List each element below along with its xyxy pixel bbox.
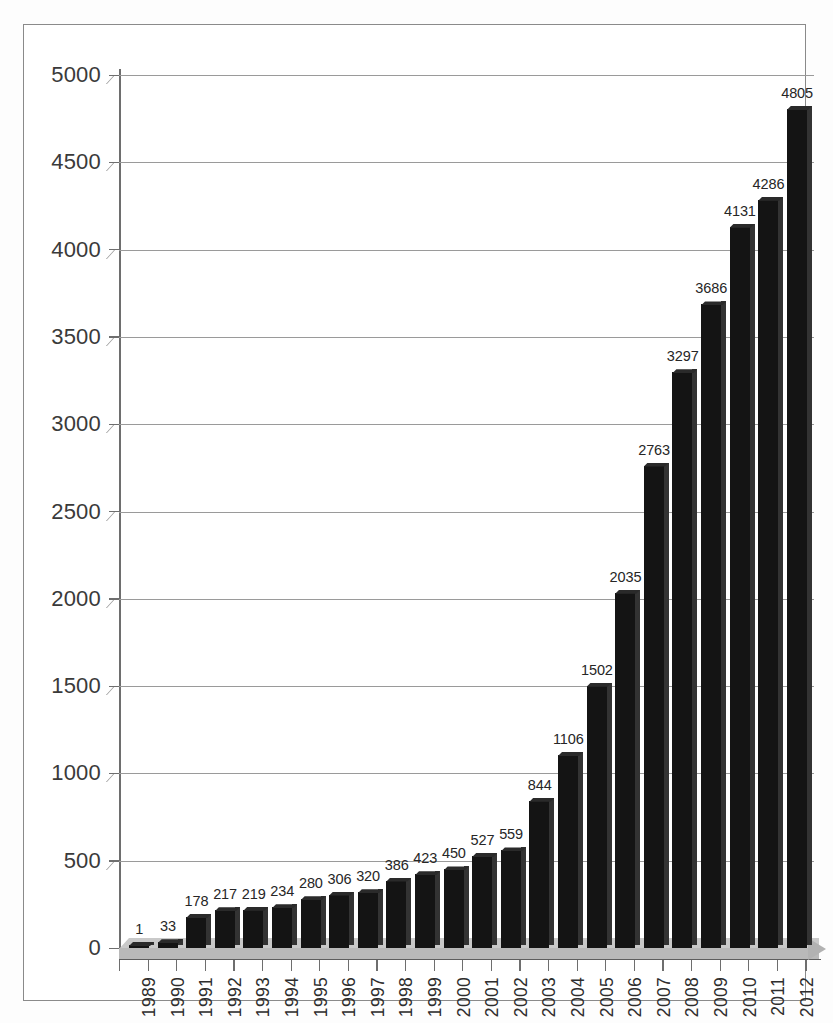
- x-axis-label-1999: 1999: [425, 977, 446, 1017]
- bar-top-face: [444, 866, 469, 870]
- y-axis-tick-mark: [109, 249, 119, 250]
- bar-value-label-2011: 4286: [753, 176, 785, 192]
- x-axis-tick-mark: [291, 960, 292, 971]
- y-axis-label-2500: 2500: [39, 499, 101, 525]
- bar-top-face: [501, 847, 526, 851]
- bar-top-face: [587, 683, 612, 687]
- x-axis-tick-mark: [491, 960, 492, 971]
- x-axis-label-2007: 2007: [654, 977, 675, 1017]
- bar-2007[interactable]: 2763: [640, 426, 669, 948]
- bar-front-face: [301, 899, 321, 948]
- x-axis-tick-mark: [148, 960, 149, 971]
- y-axis-label-2000: 2000: [39, 586, 101, 612]
- bar-front-face: [672, 372, 692, 948]
- bar-2003[interactable]: 844: [525, 761, 554, 948]
- x-axis-tick-mark: [577, 960, 578, 971]
- chart-screenshot: 0500100015002000250030003500400045005000…: [0, 0, 833, 1023]
- x-axis-label-2003: 2003: [539, 977, 560, 1017]
- bar-1997[interactable]: 320: [354, 852, 383, 948]
- y-axis-tick-mark: [109, 948, 119, 949]
- bar-front-face: [787, 109, 807, 948]
- bar-1994[interactable]: 234: [268, 867, 297, 948]
- bar-2010[interactable]: 4131: [726, 187, 755, 948]
- x-axis-label-2009: 2009: [711, 977, 732, 1017]
- bar-1996[interactable]: 306: [325, 855, 354, 948]
- bar-top-face: [129, 942, 154, 946]
- bar-top-face: [672, 369, 697, 373]
- y-axis-tick-mark: [109, 598, 119, 599]
- bar-2008[interactable]: 3297: [668, 332, 697, 948]
- y-axis-tick-mark: [109, 162, 119, 163]
- bar-value-label-1995: 280: [299, 875, 323, 891]
- y-axis-tick-mark: [109, 860, 119, 861]
- x-axis-tick-mark: [376, 960, 377, 971]
- bar-front-face: [243, 910, 263, 948]
- bar-top-face: [215, 907, 240, 911]
- bar-2005[interactable]: 1502: [583, 646, 612, 948]
- x-axis-label-1994: 1994: [282, 977, 303, 1017]
- y-axis-label-4000: 4000: [39, 237, 101, 263]
- x-axis-label-1993: 1993: [253, 977, 274, 1017]
- y-axis-label-3000: 3000: [39, 411, 101, 437]
- bar-top-face: [386, 878, 411, 882]
- x-axis-tick-mark: [434, 960, 435, 971]
- x-axis-tick-mark: [319, 960, 320, 971]
- bar-value-label-1996: 306: [328, 871, 352, 887]
- bar-2009[interactable]: 3686: [697, 264, 726, 948]
- bar-top-face: [529, 798, 554, 802]
- bar-front-face: [472, 856, 492, 948]
- x-axis-label-2001: 2001: [482, 977, 503, 1017]
- bar-2004[interactable]: 1106: [554, 715, 583, 948]
- x-axis-tick-mark: [519, 960, 520, 971]
- bar-value-label-1990: 33: [160, 918, 176, 934]
- bar-value-label-2002: 559: [499, 826, 523, 842]
- bar-front-face: [444, 869, 464, 948]
- x-axis-label-2011: 2011: [768, 977, 789, 1016]
- bar-2000[interactable]: 450: [440, 829, 469, 948]
- x-axis-label-2012: 2012: [797, 977, 818, 1017]
- x-axis-tick-mark: [348, 960, 349, 971]
- x-axis-tick-mark: [777, 960, 778, 971]
- bar-front-face: [615, 593, 635, 948]
- chart-frame-border: 0500100015002000250030003500400045005000…: [23, 24, 806, 1001]
- x-axis-tick-mark: [176, 960, 177, 971]
- bar-value-label-1999: 423: [413, 850, 437, 866]
- y-axis-label-0: 0: [39, 935, 101, 961]
- x-axis-label-2002: 2002: [511, 977, 532, 1017]
- bar-2002[interactable]: 559: [497, 810, 526, 948]
- y-axis-tick-mark: [109, 686, 119, 687]
- bar-1991[interactable]: 178: [182, 877, 211, 948]
- bar-value-label-2003: 844: [528, 777, 552, 793]
- bar-1998[interactable]: 386: [382, 841, 411, 948]
- bar-2006[interactable]: 2035: [611, 553, 640, 948]
- bar-value-label-1998: 386: [385, 857, 409, 873]
- x-axis-tick-mark: [262, 960, 263, 971]
- bar-1992[interactable]: 217: [211, 870, 240, 948]
- bar-top-face: [358, 889, 383, 893]
- bar-1993[interactable]: 219: [239, 870, 268, 948]
- x-axis-tick-mark: [634, 960, 635, 971]
- y-axis-label-1000: 1000: [39, 760, 101, 786]
- bar-2011[interactable]: 4286: [754, 160, 783, 948]
- bar-front-face: [329, 895, 349, 948]
- y-axis-label-4500: 4500: [39, 149, 101, 175]
- x-axis-label-2005: 2005: [597, 977, 618, 1017]
- bar-front-face: [358, 892, 378, 948]
- bar-1989[interactable]: 1: [125, 905, 154, 948]
- bar-1990[interactable]: 33: [154, 902, 183, 948]
- bar-1995[interactable]: 280: [297, 859, 326, 948]
- x-axis-tick-mark: [691, 960, 692, 971]
- bar-2001[interactable]: 527: [468, 816, 497, 948]
- bar-1999[interactable]: 423: [411, 834, 440, 948]
- bar-top-face: [158, 939, 183, 943]
- x-axis-label-2006: 2006: [625, 977, 646, 1017]
- x-axis-label-1995: 1995: [311, 977, 332, 1017]
- y-axis-label-1500: 1500: [39, 673, 101, 699]
- x-axis-tick-mark: [405, 960, 406, 971]
- x-axis-tick-mark: [462, 960, 463, 971]
- x-axis-label-2004: 2004: [568, 977, 589, 1017]
- x-axis-tick-mark: [748, 960, 749, 971]
- bar-2012[interactable]: 4805: [783, 69, 812, 948]
- x-axis-tick-mark: [720, 960, 721, 971]
- bar-side-face: [807, 106, 812, 945]
